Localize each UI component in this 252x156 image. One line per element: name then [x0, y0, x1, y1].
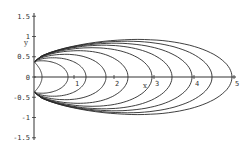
y-tick-label: 0: [26, 74, 30, 82]
y-tick-label: 0.5: [17, 53, 30, 61]
y-tick-label: -0.5: [13, 94, 30, 102]
x-tick-label: 4: [195, 80, 199, 88]
x-tick-label: 3: [155, 80, 159, 88]
x-axis-label: x: [143, 82, 147, 90]
x-tick-label: 1: [75, 80, 79, 88]
contour-plot: 123451.510.50-0.5-1-1.5 x y: [0, 0, 252, 156]
y-tick-label: -1: [22, 114, 30, 122]
y-tick-label: -1.5: [13, 134, 30, 142]
y-tick-label: 1.5: [17, 13, 30, 21]
axes: [34, 13, 236, 140]
x-tick-label: 5: [235, 80, 239, 88]
y-axis-label: y: [23, 39, 28, 47]
x-tick-label: 2: [115, 80, 119, 88]
